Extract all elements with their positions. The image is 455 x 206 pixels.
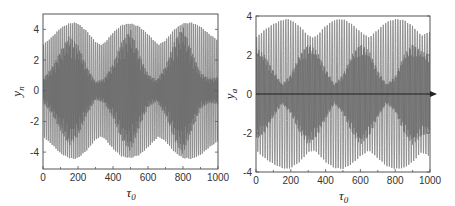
y-tick-label: 0: [33, 85, 39, 96]
y-tick-label: -4: [30, 147, 39, 158]
chart-panel-ya: 02004006008001000 420-2-4 τ0 ya: [222, 11, 442, 206]
y-tick-label: 4: [246, 11, 252, 22]
x-axis-label-ya: τ0: [339, 188, 349, 205]
chart-panel-yn: 02004006008001000 420-2-4 τ0 yn: [9, 14, 230, 202]
x-tick-label: 0: [40, 172, 46, 183]
x-tick-label: 800: [387, 175, 404, 186]
x-tick-label: 600: [352, 175, 369, 186]
x-tick-label: 0: [253, 175, 259, 186]
y-axis-label-yn: yn: [9, 86, 26, 99]
y-tick-label: -4: [243, 167, 252, 178]
y-tick-label: 2: [246, 50, 252, 61]
chart-canvas: 02004006008001000 420-2-4 τ0 yn 02004006…: [0, 0, 455, 206]
x-axis-label-yn: τ0: [127, 185, 137, 202]
y-axis-label-ya: ya: [222, 88, 239, 101]
x-tick-label: 1000: [207, 172, 230, 183]
x-tick-label: 800: [175, 172, 192, 183]
x-tick-label: 400: [317, 175, 334, 186]
y-tick-label: -2: [30, 116, 39, 127]
x-tick-label: 200: [282, 175, 299, 186]
x-tick-label: 1000: [419, 175, 442, 186]
y-tick-label: 2: [33, 55, 39, 66]
x-tick-label: 600: [140, 172, 157, 183]
y-tick-label: 0: [246, 89, 252, 100]
x-tick-label: 200: [70, 172, 87, 183]
x-tick-label: 400: [105, 172, 122, 183]
y-tick-label: 4: [33, 24, 39, 35]
y-tick-label: -2: [243, 128, 252, 139]
signal-yn: [43, 23, 218, 159]
